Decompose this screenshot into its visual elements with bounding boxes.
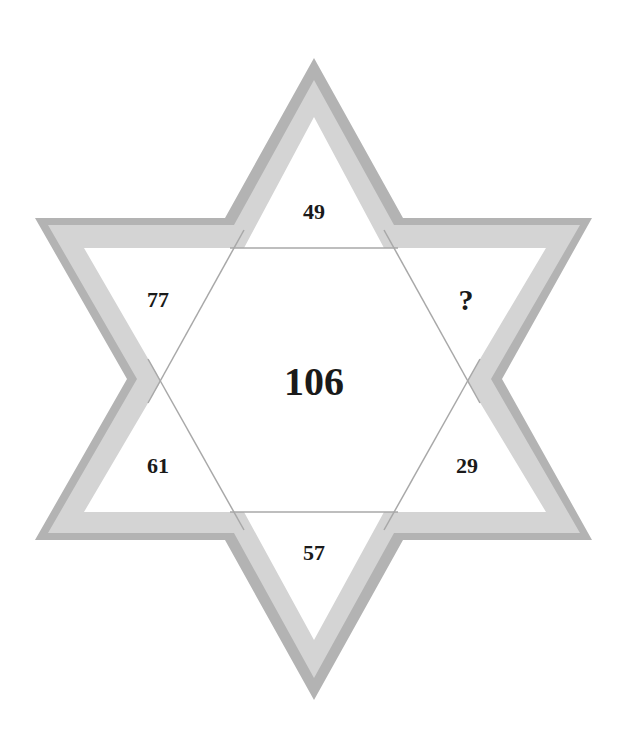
number-upper-left: 77 — [147, 289, 169, 311]
star-puzzle: 49 77 ? 106 61 29 57 — [0, 0, 632, 750]
number-upper-right-unknown: ? — [459, 285, 474, 315]
number-lower-right: 29 — [456, 455, 478, 477]
number-bottom: 57 — [303, 542, 325, 564]
number-center: 106 — [284, 362, 344, 402]
number-lower-left: 61 — [147, 455, 169, 477]
number-top: 49 — [303, 201, 325, 223]
